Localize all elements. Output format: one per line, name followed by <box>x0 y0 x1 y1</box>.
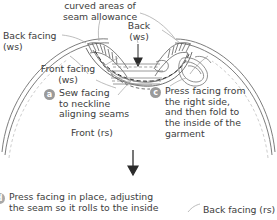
step-c: c Press facing from the right side, and … <box>150 86 274 140</box>
callout-curved-areas: curved areas of seam allowance <box>44 1 156 22</box>
sewing-diagram-figure: curved areas of seam allowance Back faci… <box>0 0 277 220</box>
flow-down-arrow <box>128 150 138 175</box>
step-d: d Press facing in place, adjusting the s… <box>0 192 194 213</box>
step-a-badge: a <box>44 89 55 100</box>
step-c-text: Press facing from the right side, and th… <box>165 86 245 140</box>
callout-back-facing-ws: Back facing (ws) <box>3 31 56 52</box>
center-back-marker <box>134 44 142 66</box>
callout-front-facing-ws: Front facing (ws) <box>32 64 104 85</box>
callout-front-rs: Front (rs) <box>71 128 113 139</box>
step-a-text: Sew facing to neckline aligning seams <box>59 88 129 120</box>
facing-curl <box>155 60 168 71</box>
callout-back-ws: Back (ws) <box>120 21 158 42</box>
step-d-text: Press facing in place, adjusting the sea… <box>9 192 158 213</box>
callout-back-facing-rs: Back facing (rs) <box>203 205 275 216</box>
step-d-badge: d <box>0 193 5 204</box>
step-c-badge: c <box>150 87 161 98</box>
folded-facing-panel <box>110 64 163 84</box>
iron-icon <box>179 56 211 86</box>
folded-facing-dashes <box>112 67 161 81</box>
step-a: a Sew facing to neckline aligning seams <box>44 88 144 120</box>
clipped-seam-allowance-right <box>154 43 191 76</box>
